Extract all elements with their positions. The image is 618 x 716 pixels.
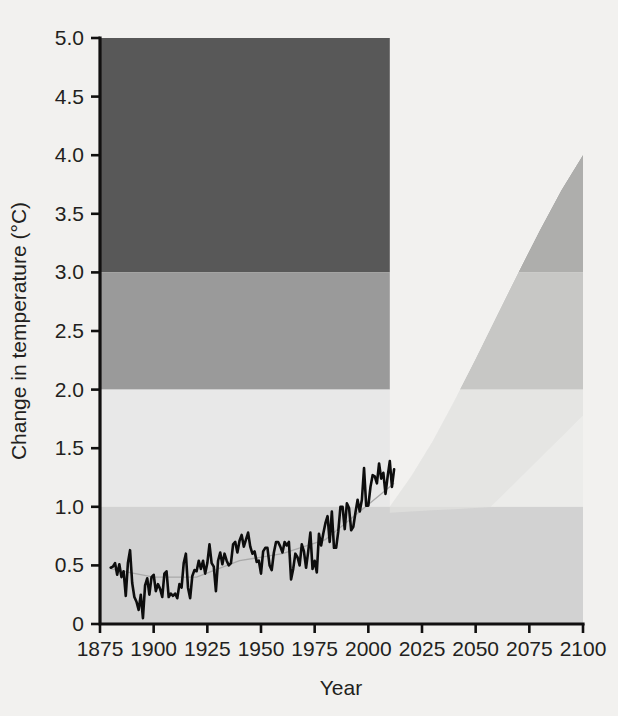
- y-tick-label: 2.5: [55, 319, 84, 342]
- x-axis-title: Year: [320, 676, 362, 699]
- figure-container: 00.51.01.52.02.53.03.54.04.55.0 18751900…: [0, 0, 618, 716]
- x-tick-label: 2075: [506, 637, 553, 660]
- y-axis-title: Change in temperature (°C): [7, 202, 30, 460]
- temperature-projection-chart: 00.51.01.52.02.53.03.54.04.55.0 18751900…: [0, 0, 618, 716]
- y-tick-label: 4.0: [55, 143, 84, 166]
- y-tick-label: 3.0: [55, 260, 84, 283]
- x-tick-label: 2050: [452, 637, 499, 660]
- y-tick-label: 0.5: [55, 553, 84, 576]
- x-tick-label: 1950: [238, 637, 285, 660]
- y-axis-tick-labels: 00.51.01.52.02.53.03.54.04.55.0: [55, 26, 84, 635]
- y-tick-label: 2.0: [55, 378, 84, 401]
- y-tick-label: 0: [72, 612, 84, 635]
- y-tick-label: 4.5: [55, 85, 84, 108]
- x-tick-label: 2000: [345, 637, 392, 660]
- chart-canvas: 00.51.01.52.02.53.03.54.04.55.0 18751900…: [0, 0, 618, 716]
- risk-band-low: [100, 507, 583, 624]
- y-tick-label: 3.5: [55, 202, 84, 225]
- x-axis-tick-labels: 1875190019251950197520002025205020752100: [77, 637, 607, 660]
- x-tick-label: 2025: [399, 637, 446, 660]
- x-tick-label: 1925: [184, 637, 231, 660]
- x-tick-label: 1900: [130, 637, 177, 660]
- x-tick-label: 1875: [77, 637, 124, 660]
- y-tick-label: 1.0: [55, 495, 84, 518]
- y-tick-label: 5.0: [55, 26, 84, 49]
- x-tick-label: 1975: [291, 637, 338, 660]
- x-tick-label: 2100: [560, 637, 607, 660]
- y-tick-label: 1.5: [55, 436, 84, 459]
